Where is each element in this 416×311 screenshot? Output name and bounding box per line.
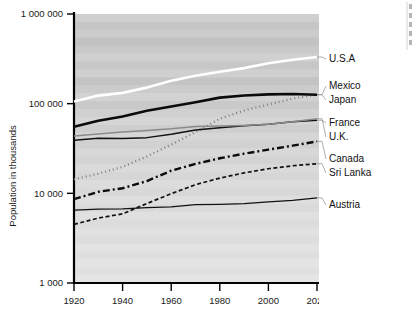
background-band <box>74 212 319 221</box>
line-chart-svg: 1 000 000100 00010 0001 000 192019401960… <box>0 0 416 311</box>
y-tick-label: 1 000 <box>39 277 63 288</box>
series-label-uk: U.K. <box>329 131 348 142</box>
background-band <box>74 38 319 47</box>
background-band <box>74 267 319 276</box>
y-axis-title: Population in thousands <box>7 125 18 227</box>
background-band <box>74 243 319 252</box>
background-band <box>74 133 319 142</box>
y-tick-label: 100 000 <box>29 98 63 109</box>
series-label-srilanka: Sri Lanka <box>329 167 372 178</box>
chart-figure: 1 000 000100 00010 0001 000 192019401960… <box>0 0 416 311</box>
background-band <box>74 164 319 173</box>
series-label-austria: Austria <box>329 199 361 210</box>
background-band <box>74 196 319 205</box>
background-band <box>74 236 319 245</box>
x-tick-label: 1940 <box>112 295 133 306</box>
background-band <box>74 46 319 55</box>
background-band <box>74 109 319 118</box>
background-band <box>74 259 319 268</box>
background-band <box>74 188 319 197</box>
edge-glyph-3 <box>409 22 412 27</box>
series-label-canada: Canada <box>329 153 364 164</box>
background-band <box>74 30 319 39</box>
y-tick-label: 1 000 000 <box>21 8 63 19</box>
background-band <box>74 156 319 165</box>
x-tick-label: 2000 <box>258 295 279 306</box>
background-band <box>74 228 319 237</box>
background-band <box>74 22 319 31</box>
edge-glyph-1 <box>409 4 412 9</box>
background-band <box>74 14 319 23</box>
edge-glyph-2 <box>409 13 412 18</box>
background-band <box>74 220 319 229</box>
x-tick-label: 1960 <box>161 295 182 306</box>
background-band <box>74 85 319 94</box>
series-label-usa: U.S.A <box>329 53 355 64</box>
edge-glyph-4 <box>409 31 412 36</box>
x-tick-label: 1920 <box>63 295 84 306</box>
plot-background-bands <box>74 14 319 284</box>
edge-glyph-5 <box>409 40 412 45</box>
background-band <box>74 77 319 86</box>
y-tick-label: 10 000 <box>34 188 63 199</box>
background-band <box>74 61 319 70</box>
series-label-japan: Japan <box>329 94 356 105</box>
series-label-france: France <box>329 117 361 128</box>
background-band <box>74 180 319 189</box>
background-band <box>74 149 319 158</box>
background-band <box>74 251 319 260</box>
x-tick-label: 1980 <box>209 295 230 306</box>
background-band <box>74 172 319 181</box>
series-label-mexico: Mexico <box>329 80 361 91</box>
